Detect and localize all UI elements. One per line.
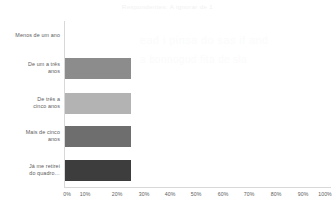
category-label-2-line2: cinco anos — [0, 103, 60, 110]
watermark-line-1: ead i pinsa do sas if and — [140, 31, 332, 50]
x-tick-40: 40% — [165, 191, 176, 197]
bar-1 — [65, 58, 131, 79]
x-tick-90: 90% — [298, 191, 309, 197]
chart-title: Respondentes: A ignorar de 1 — [0, 3, 335, 10]
x-axis-line — [64, 187, 331, 188]
category-label-4: Já me retirei do quadro… — [0, 163, 60, 176]
x-tick-0: 0% — [63, 191, 71, 197]
watermark-line-2: a bonnogud fita de sla — [140, 50, 332, 69]
x-tick-50: 50% — [191, 191, 202, 197]
x-tick-20: 20% — [112, 191, 123, 197]
x-tick-10: 10% — [80, 191, 91, 197]
category-label-3-line2: anos — [0, 136, 60, 143]
bar-2 — [65, 93, 131, 114]
category-label-2: De três a cinco anos — [0, 96, 60, 109]
category-label-2-line1: De três a — [0, 96, 60, 103]
category-label-1-line1: De um a três — [0, 61, 60, 68]
category-label-3: Mais de cinco anos — [0, 129, 60, 142]
bar-chart: Respondentes: A ignorar de 1 ead i pinsa… — [0, 0, 335, 219]
bar-4 — [65, 160, 131, 181]
x-axis-tick-labels: 0% 10% 20% 30% 40% 50% 60% 70% 80% 90% 1… — [0, 191, 335, 203]
category-label-4-line2: do quadro… — [0, 170, 60, 177]
watermark-text-layer: ead i pinsa do sas if and a bonnogud fit… — [140, 31, 332, 95]
x-tick-80: 80% — [271, 191, 282, 197]
category-label-1: De um a três anos — [0, 61, 60, 74]
x-tick-100: 100% — [318, 191, 332, 197]
bar-3 — [65, 126, 131, 147]
category-label-1-line2: anos — [0, 68, 60, 75]
category-label-3-line1: Mais de cinco — [0, 129, 60, 136]
x-tick-60: 60% — [218, 191, 229, 197]
category-label-4-line1: Já me retirei — [0, 163, 60, 170]
x-tick-30: 30% — [139, 191, 150, 197]
category-label-0-line1: Menos de um ano — [0, 32, 60, 39]
x-tick-70: 70% — [244, 191, 255, 197]
category-label-0: Menos de um ano — [0, 32, 60, 39]
